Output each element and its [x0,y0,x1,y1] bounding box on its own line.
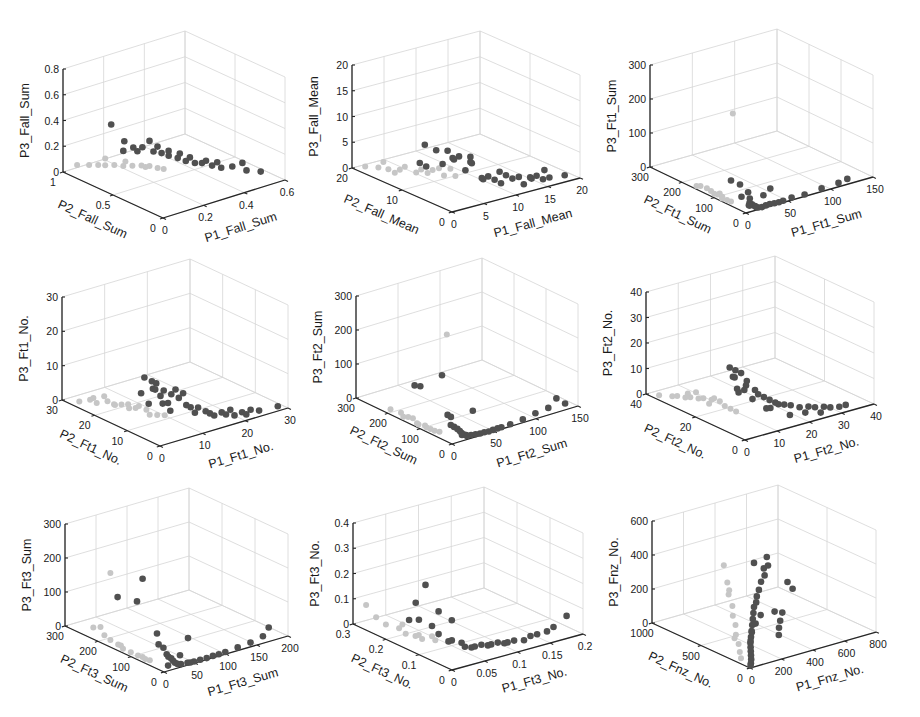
data-point [779,609,786,616]
data-point [392,170,398,176]
data-point [121,138,128,145]
data-point [243,167,250,174]
y-axis-label: P2_Ft3_Sum [58,652,130,695]
data-point [447,166,453,172]
data-point [101,632,107,638]
z-tick-label: 40 [630,286,642,298]
data-point [138,390,145,397]
data-point [836,404,843,411]
data-point [101,393,107,399]
data-point [402,164,408,170]
data-point [422,141,429,148]
data-point [165,662,172,669]
data-point [410,415,416,421]
data-point [821,403,828,410]
data-point [760,192,767,199]
x-tick-label: 15 [544,193,556,205]
data-point [154,143,161,150]
data-point [165,148,172,155]
data-point [757,612,764,619]
z-tick-label: 0.6 [44,89,59,101]
data-point [693,389,699,395]
axes [353,296,581,445]
z-tick-label: 0 [55,620,61,632]
y-tick-label: 0 [151,676,157,688]
z-tick-label: 0.1 [334,593,349,605]
x-tick-label: 0 [749,674,755,686]
y-axis-label: P2_Fall_Sum [56,197,130,241]
data-point [275,403,282,410]
y-tick-label: 0 [147,450,153,462]
y-tick-label: 100 [695,202,713,214]
z-tick-label: 400 [630,549,648,561]
data-point [685,391,691,397]
data-point [134,148,141,155]
x-tick-label: 150 [571,412,589,424]
data-point [674,393,680,399]
data-point [227,407,234,414]
z-tick-label: 0 [52,394,58,406]
z-tick-label: 0 [346,392,352,404]
data-point [437,429,443,435]
x-tick-label: 30 [838,419,850,431]
data-point [76,398,82,404]
x-axis-label: P1_Fall_Mean [492,206,574,240]
data-point [741,387,748,394]
data-point [154,412,160,418]
x-tick-label: 50 [191,669,203,681]
data-point [129,163,135,169]
z-tick-label: 300 [334,290,352,302]
series-light [363,602,438,643]
data-point [143,407,149,413]
data-point [726,587,732,593]
z-tick-label: 100 [43,586,61,598]
data-point [185,635,192,642]
data-point [187,404,194,411]
data-point [161,166,167,172]
data-point [439,161,446,168]
data-point [203,655,210,662]
data-point [767,405,774,412]
y-tick-label: 10 [111,435,123,447]
data-point [719,194,725,200]
data-point [470,407,477,414]
data-point [469,160,476,167]
data-point [780,197,787,204]
data-point [728,177,735,184]
data-point [755,391,762,398]
z-tick-label: 0 [53,166,59,178]
y-tick-label: 0.2 [369,643,384,655]
data-point [134,598,141,605]
data-point [105,398,111,404]
data-point [429,623,436,630]
z-tick-label: 0.4 [334,517,349,529]
x-tick-label: 100 [529,425,547,437]
z-axis-label: P3_Ft2_Sum [311,311,325,384]
data-point [540,176,547,183]
data-point [694,183,700,189]
z-tick-label: 0.2 [334,568,349,580]
data-point [737,649,743,655]
data-point [155,165,161,171]
data-point [114,594,121,601]
data-point [247,639,254,646]
z-tick-label: 10 [336,111,348,123]
x-tick-label: 100 [219,660,237,672]
data-point [187,659,194,666]
y-tick-label: 0 [150,222,156,234]
data-point [777,617,784,624]
data-point [403,631,409,637]
data-point [416,616,423,623]
data-point [656,392,662,398]
z-axis-label: P3_Fall_Mean [307,76,321,157]
data-point [211,412,218,419]
x-axis-label: P1_Ft3_No. [500,665,568,696]
data-point [544,628,551,635]
z-tick-label: 0 [642,617,648,629]
x-axis-label: P1_Fnz_No. [795,662,866,695]
z-tick-label: 0.2 [44,140,59,152]
data-point [462,167,469,174]
data-point [90,625,96,631]
data-point [260,633,267,640]
y-tick-label: 500 [682,650,700,662]
